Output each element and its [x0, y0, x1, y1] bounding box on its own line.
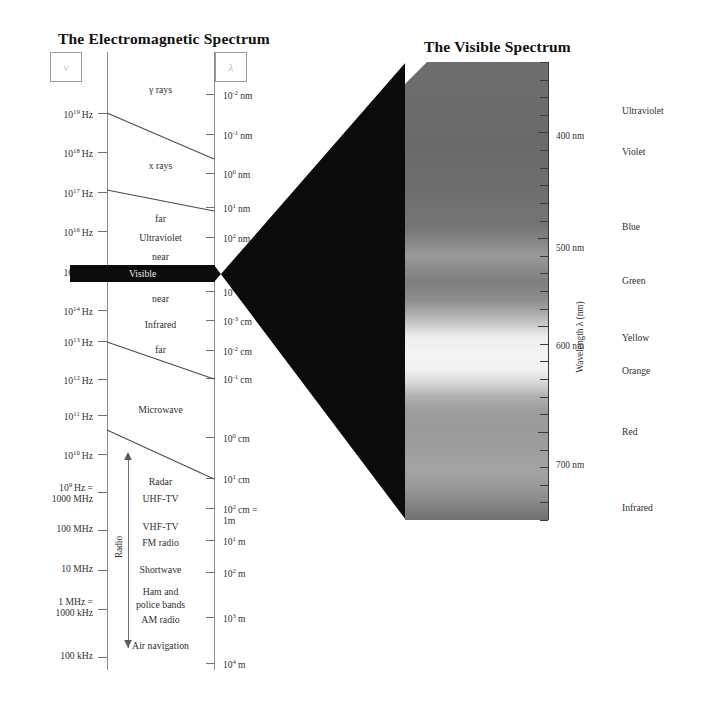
visible-spectrum-color-label: Infrared [622, 502, 653, 513]
wavelength-tick-label: 103 m [223, 610, 245, 624]
visible-spectrum-color-label: Orange [622, 365, 650, 376]
frequency-tick-label: 1017 Hz [0, 185, 93, 199]
visible-spectrum-tick [540, 168, 548, 169]
frequency-tick-label: 1013 Hz [0, 334, 93, 348]
visible-spectrum-tick [540, 273, 548, 274]
frequency-tick [98, 341, 107, 342]
frequency-tick [98, 454, 107, 455]
frequency-tick-label: 1014 Hz [0, 303, 93, 317]
visible-spectrum-tick [540, 185, 548, 186]
visible-spectrum-tick [540, 256, 548, 257]
frequency-tick [98, 530, 107, 531]
visible-spectrum-wavelength-label: 500 nm [556, 243, 584, 253]
frequency-tick [98, 657, 107, 658]
visible-axis-title-wrap: Wavelength λ (nm) [520, 330, 640, 344]
visible-spectrum-wavelength-label: 400 nm [556, 131, 584, 141]
frequency-tick [98, 379, 107, 380]
frequency-tick-label: 1016 Hz [0, 224, 93, 238]
frequency-tick [98, 231, 107, 232]
visible-band-label: Visible [129, 268, 156, 279]
visible-spectrum-color-label: Green [622, 275, 645, 286]
frequency-tick-label: 109 Hz =1000 MHz [0, 479, 93, 504]
visible-spectrum-major-tick [538, 238, 548, 239]
frequency-tick [98, 609, 107, 610]
wavelength-tick-label: 102 m [223, 565, 245, 579]
visible-spectrum-tick [540, 203, 548, 204]
visible-spectrum-tick [540, 397, 548, 398]
frequency-tick-label: 1 MHz =1000 kHz [0, 596, 93, 618]
visible-spectrum-tick [540, 414, 548, 415]
frequency-tick-label: 100 kHz [0, 650, 93, 661]
visible-spectrum-panel [405, 62, 548, 520]
frequency-tick [98, 152, 107, 153]
visible-spectrum-color-label: Red [622, 426, 637, 437]
visible-spectrum-tick [540, 361, 548, 362]
visible-axis-title: Wavelength λ (nm) [573, 277, 587, 397]
visible-spectrum-tick [540, 62, 548, 63]
frequency-tick-label: 1018 Hz [0, 145, 93, 159]
visible-spectrum-tick [540, 291, 548, 292]
electromagnetic-spectrum-title: The Electromagnetic Spectrum [58, 30, 270, 48]
frequency-tick-label: 1019 Hz [0, 106, 93, 120]
visible-spectrum-major-tick [538, 132, 548, 133]
frequency-tick [98, 492, 107, 493]
visible-spectrum-color-label: Blue [622, 221, 640, 232]
visible-band-wedge [214, 60, 414, 530]
visible-spectrum-tick [540, 344, 548, 345]
visible-spectrum-tick [540, 467, 548, 468]
visible-spectrum-tick [540, 115, 548, 116]
visible-spectrum-major-tick [538, 432, 548, 433]
visible-spectrum-tick [540, 450, 548, 451]
visible-spectrum-tick [540, 520, 548, 521]
frequency-tick [98, 415, 107, 416]
wavelength-tick-label: 101 m [223, 533, 245, 547]
frequency-tick [98, 570, 107, 571]
visible-spectrum-tick [540, 379, 548, 380]
frequency-symbol: ν [64, 62, 68, 73]
visible-spectrum-tick [540, 309, 548, 310]
visible-spectrum-tick [540, 97, 548, 98]
frequency-tick-label: 1010 Hz [0, 447, 93, 461]
visible-spectrum-color-label: Violet [622, 146, 645, 157]
frequency-tick-label: 10 MHz [0, 563, 93, 574]
visible-spectrum-title: The Visible Spectrum [424, 38, 571, 56]
visible-spectrum-tick [540, 485, 548, 486]
wavelength-tick-label: 104 m [223, 656, 245, 670]
frequency-symbol-box: ν [50, 52, 82, 82]
frequency-tick [98, 310, 107, 311]
visible-spectrum-color-label: Ultraviolet [622, 105, 664, 116]
frequency-tick-label: 1012 Hz [0, 372, 93, 386]
frequency-tick [98, 113, 107, 114]
visible-spectrum-axis-line [548, 62, 549, 520]
frequency-tick [98, 192, 107, 193]
frequency-tick-label: 100 MHz [0, 523, 93, 534]
frequency-tick-label: 1011 Hz [0, 408, 93, 422]
radio-bracket-label-wrap: Radio [96, 540, 142, 554]
visible-spectrum-tick [540, 221, 548, 222]
visible-spectrum-major-tick [538, 326, 548, 327]
visible-spectrum-wavelength-label: 700 nm [556, 460, 584, 470]
panel-corner-bevel [405, 62, 548, 520]
visible-spectrum-tick [540, 80, 548, 81]
visible-spectrum-tick [540, 502, 548, 503]
visible-spectrum-tick [540, 150, 548, 151]
radio-bracket-label: Radio [112, 524, 126, 570]
